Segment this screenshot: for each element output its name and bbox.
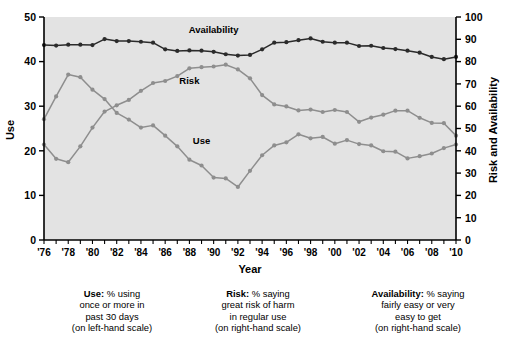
data-point bbox=[272, 41, 276, 45]
x-tick-label: '86 bbox=[158, 247, 172, 258]
left-tick-label: 40 bbox=[24, 55, 36, 67]
data-point bbox=[418, 51, 422, 55]
note-risk: Risk: % saying great risk of harm in reg… bbox=[188, 288, 328, 334]
right-tick-label: 60 bbox=[465, 100, 477, 112]
data-point bbox=[163, 47, 167, 51]
x-axis-tick-labels: '76'78'80'82'84'86'88'90'92'94'96'98'00'… bbox=[37, 247, 463, 258]
x-tick-label: '00 bbox=[328, 247, 342, 258]
data-point bbox=[333, 41, 337, 45]
data-point bbox=[151, 41, 155, 45]
data-point bbox=[405, 109, 409, 113]
left-axis-tick-labels: 01020304050 bbox=[24, 11, 36, 246]
data-point bbox=[418, 154, 422, 158]
data-point bbox=[187, 66, 191, 70]
data-point bbox=[260, 153, 264, 157]
data-point bbox=[260, 93, 264, 97]
data-point bbox=[405, 156, 409, 160]
data-point bbox=[139, 40, 143, 44]
data-point bbox=[345, 138, 349, 142]
data-point bbox=[78, 144, 82, 148]
data-point bbox=[212, 64, 216, 68]
data-point bbox=[199, 49, 203, 53]
data-point bbox=[393, 47, 397, 51]
data-point bbox=[381, 149, 385, 153]
x-tick-label: '04 bbox=[377, 247, 391, 258]
x-tick-label: '80 bbox=[86, 247, 100, 258]
x-tick-label: '02 bbox=[352, 247, 366, 258]
x-tick-label: '82 bbox=[110, 247, 124, 258]
x-tick-label: '96 bbox=[280, 247, 294, 258]
data-point bbox=[54, 94, 58, 98]
x-tick-label: '76 bbox=[37, 247, 51, 258]
data-point bbox=[66, 43, 70, 47]
data-point bbox=[442, 121, 446, 125]
data-point bbox=[90, 43, 94, 47]
data-point bbox=[369, 143, 373, 147]
data-point bbox=[296, 108, 300, 112]
note-use-line-2: past 30 days bbox=[85, 311, 138, 322]
right-tick-label: 30 bbox=[465, 167, 477, 179]
data-point bbox=[163, 79, 167, 83]
note-use-line-0: % using bbox=[107, 288, 140, 299]
data-point bbox=[272, 102, 276, 106]
data-point bbox=[127, 117, 131, 121]
right-axis-tick-labels: 0102030405060708090100 bbox=[465, 11, 483, 246]
data-point bbox=[430, 55, 434, 59]
x-tick-label: '10 bbox=[449, 247, 463, 258]
data-point bbox=[187, 158, 191, 162]
data-point bbox=[175, 144, 179, 148]
data-point bbox=[284, 140, 288, 144]
left-tick-label: 20 bbox=[24, 145, 36, 157]
data-point bbox=[284, 40, 288, 44]
data-point bbox=[127, 39, 131, 43]
data-point bbox=[66, 72, 70, 76]
data-point bbox=[284, 104, 288, 108]
data-point bbox=[54, 43, 58, 47]
data-point bbox=[381, 46, 385, 50]
data-point bbox=[260, 47, 264, 51]
data-point bbox=[308, 36, 312, 40]
data-point bbox=[296, 132, 300, 136]
data-point bbox=[102, 97, 106, 101]
data-point bbox=[212, 50, 216, 54]
data-point bbox=[333, 142, 337, 146]
data-point bbox=[393, 109, 397, 113]
data-point bbox=[430, 121, 434, 125]
data-point bbox=[151, 81, 155, 85]
data-point bbox=[393, 150, 397, 154]
note-availability-line-2: easy to get bbox=[395, 311, 441, 322]
note-availability-title: Availability: bbox=[372, 288, 424, 299]
data-point bbox=[369, 44, 373, 48]
x-axis-title: Year bbox=[238, 263, 262, 275]
data-point bbox=[248, 169, 252, 173]
data-point bbox=[369, 115, 373, 119]
left-tick-label: 10 bbox=[24, 189, 36, 201]
data-point bbox=[321, 40, 325, 44]
y2-axis-title: Risk and Availability bbox=[487, 76, 499, 183]
right-tick-label: 0 bbox=[465, 234, 471, 246]
data-point bbox=[357, 44, 361, 48]
note-use-line-3: (on left-hand scale) bbox=[72, 322, 152, 333]
data-point bbox=[54, 157, 58, 161]
left-tick-label: 30 bbox=[24, 100, 36, 112]
data-point bbox=[381, 113, 385, 117]
note-use-title: Use: bbox=[84, 288, 104, 299]
data-point bbox=[224, 176, 228, 180]
right-tick-label: 50 bbox=[465, 122, 477, 134]
series-label-risk: Risk bbox=[179, 75, 200, 86]
data-point bbox=[78, 75, 82, 79]
note-availability-line-0: % saying bbox=[426, 288, 464, 299]
data-point bbox=[430, 151, 434, 155]
data-point bbox=[90, 126, 94, 130]
data-point bbox=[78, 43, 82, 47]
note-availability: Availability: % saying fairly easy or ve… bbox=[338, 288, 498, 334]
data-point bbox=[115, 111, 119, 115]
data-point bbox=[418, 116, 422, 120]
note-availability-line-3: (on right-hand scale) bbox=[375, 322, 461, 333]
data-point bbox=[442, 146, 446, 150]
data-point bbox=[308, 136, 312, 140]
right-tick-label: 20 bbox=[465, 189, 477, 201]
note-use-line-1: once or more in bbox=[79, 299, 144, 310]
data-point bbox=[308, 107, 312, 111]
data-point bbox=[127, 98, 131, 102]
